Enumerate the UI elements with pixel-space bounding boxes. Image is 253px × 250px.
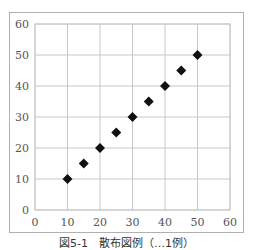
y-tick-label: 10 xyxy=(15,173,29,186)
y-tick-label: 0 xyxy=(22,204,29,217)
x-tick-label: 30 xyxy=(126,216,140,229)
axis-ticks: 01020304050600102030405060 xyxy=(15,18,237,229)
x-tick-label: 60 xyxy=(223,216,237,229)
diamond-marker xyxy=(128,112,138,122)
diamond-marker xyxy=(176,66,186,76)
x-tick-label: 10 xyxy=(61,216,75,229)
diamond-marker xyxy=(144,97,154,107)
x-tick-label: 40 xyxy=(158,216,172,229)
diamond-marker xyxy=(111,128,121,138)
y-tick-label: 30 xyxy=(15,111,29,124)
y-tick-label: 20 xyxy=(15,142,29,155)
x-tick-label: 20 xyxy=(93,216,107,229)
diamond-marker xyxy=(193,50,203,60)
diamond-marker xyxy=(79,159,89,169)
y-tick-label: 60 xyxy=(15,18,29,31)
figure-caption: 図5-1 散布図例（…1例） xyxy=(0,238,253,250)
diamond-marker xyxy=(95,143,105,153)
x-tick-label: 50 xyxy=(191,216,205,229)
y-tick-label: 50 xyxy=(15,49,29,62)
diamond-marker xyxy=(160,81,170,91)
x-tick-label: 0 xyxy=(32,216,39,229)
diamond-marker xyxy=(63,174,73,184)
y-tick-label: 40 xyxy=(15,80,29,93)
